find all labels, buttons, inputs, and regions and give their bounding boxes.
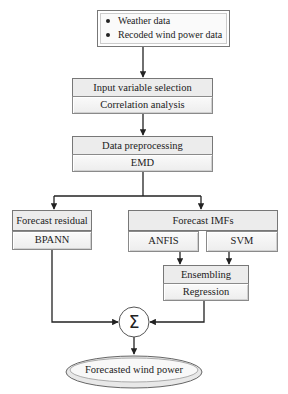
ensembling-title: Ensembling <box>163 265 249 284</box>
input-selection-title: Input variable selection <box>72 78 213 97</box>
svm-box: SVM <box>206 231 278 252</box>
bpann-box: BPANN <box>12 231 92 250</box>
correlation-analysis-box: Correlation analysis <box>72 96 213 114</box>
input-item-weather: Weather data <box>106 14 229 28</box>
input-data-box: Weather data Recoded wind power data <box>97 10 230 47</box>
bullet-icon <box>106 19 110 23</box>
connector-lines <box>0 0 288 394</box>
forecast-imfs-title: Forecast IMFs <box>128 210 278 231</box>
forecast-residual-title: Forecast residual <box>12 210 92 231</box>
sigma-icon: Σ <box>120 310 148 334</box>
regression-box: Regression <box>163 283 249 301</box>
bullet-icon <box>106 33 110 37</box>
emd-box: EMD <box>72 154 213 172</box>
anfis-box: ANFIS <box>128 231 199 252</box>
input-item-wind-power: Recoded wind power data <box>106 28 229 42</box>
output-label: Forecasted wind power <box>68 362 200 378</box>
preprocessing-title: Data preprocessing <box>72 136 213 155</box>
